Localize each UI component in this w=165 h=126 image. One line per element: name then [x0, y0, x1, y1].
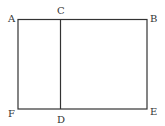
- label-D: D: [57, 114, 65, 125]
- label-C: C: [57, 5, 65, 16]
- rectangle-ABEF: [18, 20, 147, 110]
- label-F: F: [8, 108, 15, 119]
- rectangle-diagram: A C B F D E: [0, 0, 165, 126]
- label-E: E: [150, 106, 157, 117]
- label-A: A: [7, 13, 16, 24]
- label-B: B: [150, 13, 157, 24]
